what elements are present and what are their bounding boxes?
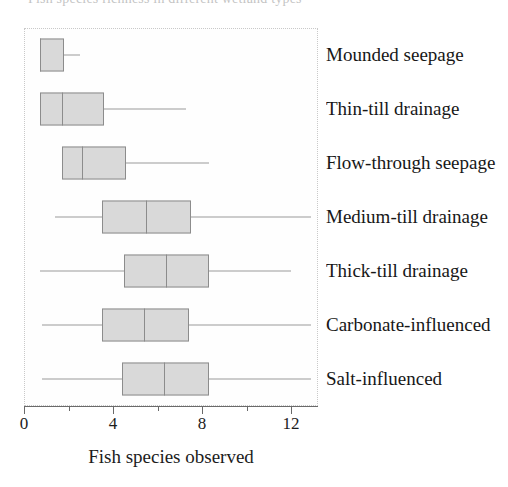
boxplot-row bbox=[0, 136, 508, 190]
box-iqr bbox=[40, 93, 105, 126]
x-tick-label: 8 bbox=[198, 414, 207, 434]
box-iqr bbox=[102, 309, 189, 342]
boxplot-row bbox=[0, 82, 508, 136]
boxplot-row bbox=[0, 298, 508, 352]
x-axis-title: Fish species observed bbox=[24, 446, 318, 468]
x-tick-major bbox=[291, 406, 292, 414]
boxplot-row bbox=[0, 352, 508, 406]
x-tick-minor bbox=[158, 406, 159, 411]
median-line bbox=[82, 147, 83, 180]
x-tick-major bbox=[24, 406, 25, 414]
box-iqr bbox=[62, 147, 127, 180]
x-tick-major bbox=[113, 406, 114, 414]
x-tick-major bbox=[202, 406, 203, 414]
box-iqr bbox=[122, 363, 209, 396]
boxplot-row bbox=[0, 190, 508, 244]
x-tick-label: 12 bbox=[283, 414, 300, 434]
median-line bbox=[164, 363, 165, 396]
boxplot-figure: Fish species richness in different wetla… bbox=[0, 0, 508, 487]
median-line bbox=[62, 93, 63, 126]
x-tick-label: 0 bbox=[20, 414, 29, 434]
chart-title: Fish species richness in different wetla… bbox=[28, 0, 498, 7]
boxplot-row bbox=[0, 244, 508, 298]
x-tick-minor bbox=[69, 406, 70, 411]
median-line bbox=[144, 309, 145, 342]
boxplot-row bbox=[0, 28, 508, 82]
x-tick-minor bbox=[247, 406, 248, 411]
median-line bbox=[146, 201, 147, 234]
x-tick-label: 4 bbox=[109, 414, 118, 434]
median-line bbox=[166, 255, 167, 288]
box-iqr bbox=[40, 39, 64, 72]
median-line bbox=[40, 39, 41, 72]
